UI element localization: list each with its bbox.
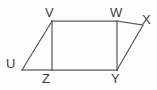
vertex-label-z: Z [42, 72, 50, 85]
geometry-figure: V W X U Z Y [0, 0, 157, 90]
segment-wx [117, 21, 143, 25]
segment-xy [117, 25, 143, 70]
vertex-label-x: X [142, 13, 151, 26]
figure-canvas [0, 0, 157, 90]
segment-uv [22, 21, 52, 70]
vertex-label-v: V [45, 6, 54, 19]
vertex-label-w: W [110, 6, 122, 19]
vertex-label-y: Y [111, 72, 120, 85]
vertex-label-u: U [6, 57, 15, 70]
